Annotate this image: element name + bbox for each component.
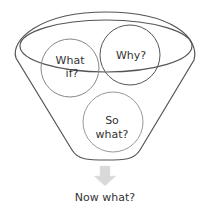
output-label: Now what? (75, 191, 135, 204)
label-why: Why? (116, 49, 146, 62)
label-what: What (56, 54, 86, 67)
label-if: if? (66, 67, 79, 80)
label-so: So (105, 114, 119, 127)
down-arrow-icon (94, 166, 116, 186)
label-what-q: what? (96, 128, 129, 141)
funnel-diagram: What if? Why? So what? Now what? (0, 0, 208, 207)
